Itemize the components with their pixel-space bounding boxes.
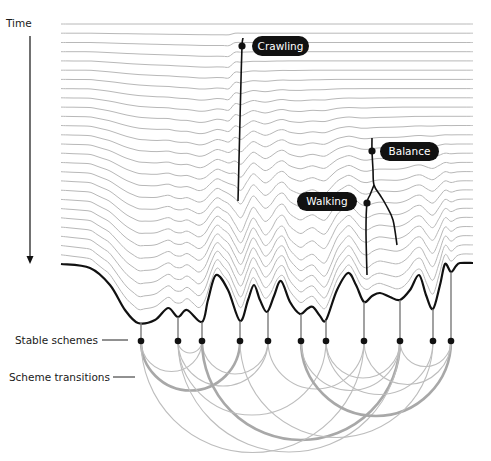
transition-arc-F-I bbox=[301, 341, 400, 390]
landscape-contour-line bbox=[61, 89, 473, 101]
stable-scheme-nodes bbox=[138, 338, 455, 345]
scheme-stems bbox=[141, 272, 451, 341]
epigenetic-landscape-diagram: Time CrawlingBalanceWalking Stable schem… bbox=[0, 0, 491, 461]
landscape-contour-line bbox=[61, 33, 473, 35]
stable-scheme-node bbox=[397, 338, 404, 345]
landscape-contour-line bbox=[61, 116, 473, 133]
legend: Stable schemes Scheme transitions bbox=[9, 334, 135, 383]
landscape-contour-line bbox=[61, 61, 473, 68]
milestone-dot bbox=[363, 199, 370, 206]
landscape-contour-line bbox=[61, 107, 473, 122]
stable-scheme-node bbox=[237, 338, 244, 345]
developmental-trajectories bbox=[238, 38, 397, 275]
stable-scheme-node bbox=[199, 338, 206, 345]
milestone-walking: Walking bbox=[297, 192, 371, 211]
stable-scheme-node bbox=[323, 338, 330, 345]
milestone-dot bbox=[238, 42, 245, 49]
landscape-contour-line bbox=[61, 236, 473, 288]
time-axis-label: Time bbox=[5, 17, 32, 29]
transition-arcs bbox=[141, 341, 451, 453]
time-axis: Time bbox=[5, 17, 34, 264]
transition-arc-B-C bbox=[178, 341, 202, 353]
stable-scheme-node bbox=[448, 338, 455, 345]
milestone-label: Walking bbox=[306, 195, 347, 207]
stable-scheme-node bbox=[298, 338, 305, 345]
landscape-contour-lines bbox=[61, 24, 473, 310]
landscape-contour-line bbox=[61, 70, 473, 78]
landscape-contour-line bbox=[61, 217, 473, 264]
milestone-label: Balance bbox=[389, 145, 431, 157]
stable-scheme-node bbox=[265, 338, 272, 345]
milestone-crawling: Crawling bbox=[238, 36, 309, 56]
milestone-dot bbox=[368, 147, 375, 154]
stable-scheme-node bbox=[430, 338, 437, 345]
landscape-contour-line bbox=[61, 98, 473, 111]
landscape-contour-line bbox=[61, 79, 473, 89]
stable-scheme-node bbox=[138, 338, 145, 345]
transition-arc-I-K bbox=[400, 341, 451, 367]
stable-schemes-label: Stable schemes bbox=[15, 334, 98, 346]
transition-arc-G-J bbox=[326, 341, 433, 394]
stable-scheme-node bbox=[361, 338, 368, 345]
scheme-transitions-label: Scheme transitions bbox=[9, 371, 110, 383]
transition-arc-E-H bbox=[268, 341, 364, 389]
transition-arc-C-I bbox=[202, 341, 400, 440]
stable-scheme-node bbox=[175, 338, 182, 345]
down-arrow-icon bbox=[27, 256, 34, 264]
transition-arc-A-C bbox=[141, 341, 202, 372]
landscape-contour-line bbox=[61, 190, 473, 232]
milestone-label: Crawling bbox=[258, 40, 304, 52]
